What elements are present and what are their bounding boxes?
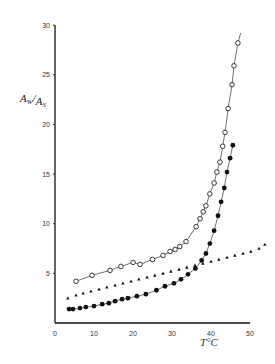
open-circle-marker	[226, 106, 231, 111]
y-tick-label: 30	[42, 22, 50, 29]
open-circle-marker	[74, 279, 79, 284]
filled-circle-marker	[83, 305, 88, 310]
filled-circle-marker	[154, 288, 159, 293]
y-tick-label: 10	[42, 220, 50, 227]
filled-circle-marker	[71, 307, 76, 312]
open-circle-marker	[168, 249, 173, 254]
triangle-marker	[233, 254, 236, 257]
triangle-marker	[129, 279, 132, 282]
filled-circle-marker	[179, 277, 184, 282]
filled-circle-marker	[204, 251, 209, 256]
triangle-marker	[97, 287, 100, 290]
filled-circle-marker	[199, 258, 204, 263]
filled-circle-marker	[172, 281, 177, 286]
open-circle-marker	[138, 262, 143, 267]
open-circle-marker	[161, 253, 166, 258]
triangle-marker	[209, 260, 212, 263]
triangle-marker	[185, 266, 188, 269]
open-circle-marker	[218, 160, 223, 165]
series-layer	[66, 33, 266, 311]
filled-circle-marker	[230, 143, 235, 148]
open-circle-marker	[173, 247, 178, 252]
filled-circle-marker	[126, 296, 131, 301]
filled-circle-marker	[186, 272, 191, 277]
filled-circle-marker	[92, 304, 97, 309]
open-circle-marker	[201, 209, 206, 214]
y-axis-label: AW/AS	[19, 92, 46, 109]
chart: 5101520253001020304050 AW/AS T°C	[0, 0, 275, 364]
open-circle-marker	[131, 260, 136, 265]
x-tick-label: 50	[246, 330, 254, 337]
filled-circle-marker	[207, 241, 212, 246]
filled-circle-marker	[135, 294, 140, 299]
filled-circle-marker	[100, 302, 105, 307]
triangle-marker	[105, 285, 108, 288]
y-tick-label: 20	[42, 121, 50, 128]
filled-circle-marker	[120, 297, 125, 302]
series-filled-circle	[67, 143, 236, 312]
triangle-marker	[153, 274, 156, 277]
series-filled-triangle	[66, 243, 266, 300]
open-circle-marker	[232, 64, 237, 69]
series-open-circle	[74, 33, 241, 284]
filled-circle-marker	[163, 284, 168, 289]
x-axis-label: T°C	[200, 336, 219, 348]
triangle-marker	[249, 250, 252, 253]
series-line	[69, 145, 233, 309]
triangle-marker	[225, 256, 228, 259]
open-circle-marker	[212, 181, 217, 186]
open-circle-marker	[184, 239, 189, 244]
filled-circle-marker	[106, 301, 111, 306]
triangle-marker	[169, 270, 172, 273]
triangle-marker	[161, 272, 164, 275]
filled-circle-marker	[228, 156, 233, 161]
open-circle-marker	[194, 224, 199, 229]
open-circle-marker	[215, 170, 220, 175]
x-tick-label: 30	[168, 330, 176, 337]
x-tick-label: 10	[90, 330, 98, 337]
open-circle-marker	[178, 244, 183, 249]
triangle-marker	[263, 243, 266, 246]
filled-circle-marker	[225, 170, 230, 175]
triangle-marker	[81, 291, 84, 294]
filled-circle-marker	[113, 299, 118, 304]
triangle-marker	[89, 289, 92, 292]
open-circle-marker	[223, 130, 228, 135]
y-tick-label: 5	[46, 270, 50, 277]
filled-circle-marker	[143, 292, 148, 297]
filled-circle-marker	[78, 306, 83, 311]
triangle-marker	[66, 296, 69, 299]
open-circle-marker	[208, 192, 213, 197]
triangle-marker	[193, 264, 196, 267]
x-tick-label: 0	[53, 330, 57, 337]
open-circle-marker	[150, 257, 155, 262]
axes: 5101520253001020304050	[42, 22, 254, 337]
triangle-marker	[113, 283, 116, 286]
open-circle-marker	[204, 204, 209, 209]
open-circle-marker	[119, 264, 124, 269]
x-tick-label: 20	[129, 330, 137, 337]
y-tick-label: 25	[42, 71, 50, 78]
triangle-marker	[121, 281, 124, 284]
series-line	[76, 33, 241, 281]
open-circle-marker	[108, 268, 113, 273]
triangle-marker	[137, 278, 140, 281]
triangle-marker	[217, 258, 220, 261]
triangle-marker	[74, 293, 77, 296]
filled-circle-marker	[222, 186, 227, 191]
open-circle-marker	[198, 216, 203, 221]
open-circle-marker	[90, 273, 95, 278]
filled-circle-marker	[216, 213, 221, 218]
triangle-marker	[241, 252, 244, 255]
filled-circle-marker	[212, 228, 217, 233]
filled-circle-marker	[219, 199, 224, 204]
triangle-marker	[177, 268, 180, 271]
triangle-marker	[145, 276, 148, 279]
y-tick-label: 15	[42, 171, 50, 178]
open-circle-marker	[220, 144, 225, 149]
open-circle-marker	[236, 41, 241, 46]
triangle-marker	[257, 247, 260, 250]
open-circle-marker	[230, 82, 235, 87]
